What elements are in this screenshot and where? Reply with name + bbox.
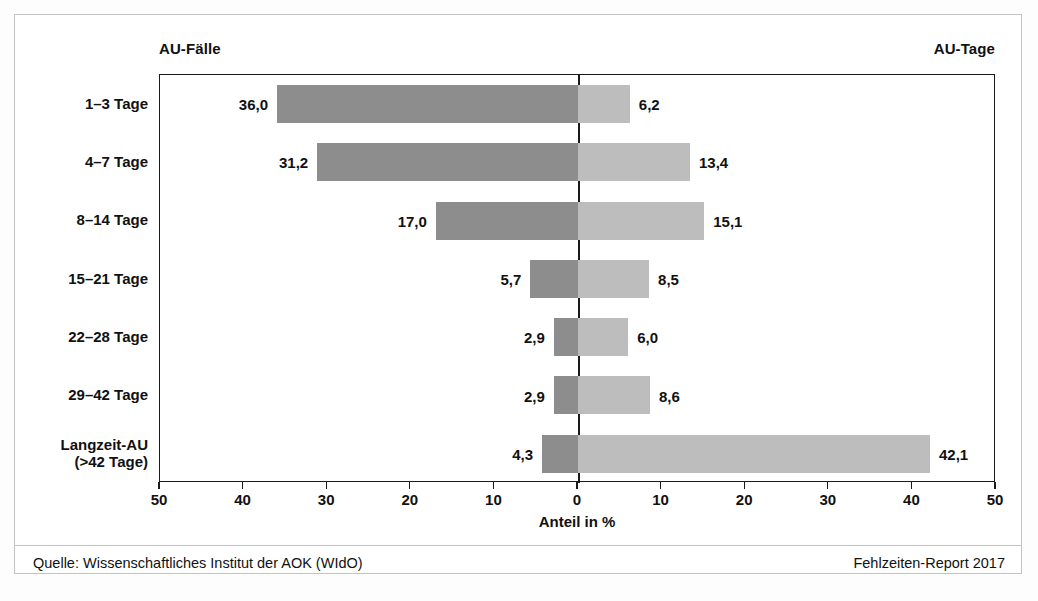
x-axis-tick-label: 40	[903, 491, 920, 508]
value-label-au-faelle: 36,0	[239, 96, 268, 113]
bar-row: 17,015,1	[160, 192, 996, 250]
bar-row: 31,213,4	[160, 133, 996, 191]
category-label: Langzeit-AU(>42 Tage)	[0, 436, 148, 470]
report-note: Fehlzeiten-Report 2017	[853, 555, 1005, 571]
bar-au-faelle	[317, 143, 578, 181]
category-label: 4–7 Tage	[0, 153, 148, 170]
category-label: 1–3 Tage	[0, 95, 148, 112]
value-label-au-faelle: 31,2	[279, 154, 308, 171]
x-axis-tick-label: 50	[151, 491, 168, 508]
column-header-au-tage: AU-Tage	[934, 40, 995, 57]
x-axis-tick	[409, 482, 410, 489]
x-axis-tick-label: 20	[736, 491, 753, 508]
bar-au-faelle	[542, 435, 578, 473]
footer-divider	[14, 545, 1022, 546]
bar-au-faelle	[554, 376, 578, 414]
category-label-line: 1–3 Tage	[0, 95, 148, 112]
bar-au-tage	[578, 260, 649, 298]
bar-au-tage	[578, 435, 930, 473]
value-label-au-tage: 6,2	[639, 96, 660, 113]
value-label-au-tage: 6,0	[637, 329, 658, 346]
value-label-au-faelle: 17,0	[398, 212, 427, 229]
bar-au-faelle	[530, 260, 578, 298]
x-axis-tick	[744, 482, 745, 489]
value-label-au-faelle: 2,9	[524, 387, 545, 404]
category-label: 8–14 Tage	[0, 211, 148, 228]
bar-row: 5,78,5	[160, 250, 996, 308]
x-axis-tick-label: 50	[987, 491, 1004, 508]
x-axis-tick	[493, 482, 494, 489]
value-label-au-tage: 13,4	[699, 154, 728, 171]
category-label: 22–28 Tage	[0, 328, 148, 345]
x-axis-tick-label: 10	[485, 491, 502, 508]
x-axis-tick	[994, 482, 995, 489]
x-axis-tick-label: 30	[819, 491, 836, 508]
value-label-au-tage: 8,6	[659, 387, 680, 404]
category-label-line: 29–42 Tage	[0, 386, 148, 403]
column-header-au-faelle: AU-Fälle	[159, 40, 221, 57]
x-axis-tick	[242, 482, 243, 489]
bar-au-tage	[578, 202, 704, 240]
x-axis-tick	[660, 482, 661, 489]
bar-row: 2,96,0	[160, 308, 996, 366]
bar-row: 2,98,6	[160, 366, 996, 424]
category-label: 29–42 Tage	[0, 386, 148, 403]
source-note: Quelle: Wissenschaftliches Institut der …	[33, 555, 363, 571]
bar-row: 4,342,1	[160, 425, 996, 483]
value-label-au-faelle: 2,9	[524, 329, 545, 346]
bar-au-faelle	[277, 85, 578, 123]
value-label-au-tage: 8,5	[658, 270, 679, 287]
bar-au-faelle	[436, 202, 578, 240]
x-axis-tick	[911, 482, 912, 489]
category-label-line: 22–28 Tage	[0, 328, 148, 345]
bar-row: 36,06,2	[160, 75, 996, 133]
category-label-line: 8–14 Tage	[0, 211, 148, 228]
x-axis-title: Anteil in %	[539, 513, 616, 530]
value-label-au-faelle: 4,3	[512, 445, 533, 462]
value-label-au-faelle: 5,7	[501, 270, 522, 287]
x-axis-tick	[576, 482, 577, 489]
bar-au-tage	[578, 318, 628, 356]
x-axis-tick	[827, 482, 828, 489]
bar-au-faelle	[554, 318, 578, 356]
x-axis-tick-label: 30	[318, 491, 335, 508]
bar-au-tage	[578, 143, 690, 181]
x-axis-tick-label: 10	[652, 491, 669, 508]
category-label-line: 15–21 Tage	[0, 270, 148, 287]
x-axis-tick-label: 20	[401, 491, 418, 508]
x-axis-tick	[326, 482, 327, 489]
x-axis-tick-label: 0	[573, 491, 581, 508]
x-axis-tick-label: 40	[234, 491, 251, 508]
bar-au-tage	[578, 85, 630, 123]
x-axis-tick	[158, 482, 159, 489]
category-label-line: 4–7 Tage	[0, 153, 148, 170]
category-label: 15–21 Tage	[0, 270, 148, 287]
value-label-au-tage: 42,1	[939, 445, 968, 462]
category-label-line: (>42 Tage)	[0, 453, 148, 470]
bar-au-tage	[578, 376, 650, 414]
category-label-line: Langzeit-AU	[0, 436, 148, 453]
value-label-au-tage: 15,1	[713, 212, 742, 229]
plot-area: 36,06,231,213,417,015,15,78,52,96,02,98,…	[159, 74, 995, 482]
